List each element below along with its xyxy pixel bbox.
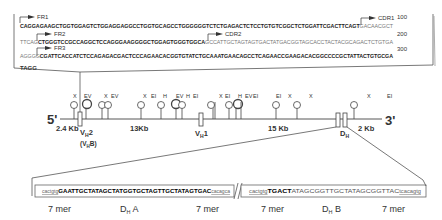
svg-text:EV: EV [245, 93, 253, 99]
svg-text:EV: EV [84, 93, 92, 99]
dh-a-sequence: cactgtgGAATTGCTATAGCTATGGTGCTAGTTGCTATAG… [42, 188, 230, 194]
svg-text:X: X [219, 93, 223, 99]
site-ev-icon [105, 102, 112, 109]
sequence-row-3: AGGGGCGATTCACCATCTCCAGAGACGACTCCCAGAACAC… [20, 52, 393, 59]
svg-text:X: X [143, 93, 147, 99]
svg-text:H: H [163, 93, 167, 99]
dh-b-segment: cactgtgTGACTATAGCGGTTGCTATAGCGGTTACtcaca… [241, 180, 426, 197]
distance-15kb: 15 Kb [268, 124, 289, 133]
site-h-icon [179, 102, 186, 109]
svg-text:EV: EV [176, 93, 184, 99]
site-x-icon [208, 102, 215, 109]
three-prime-label: 3' [385, 113, 395, 128]
heptamer-4-label: 7 mer [382, 204, 405, 214]
svg-text:X: X [367, 93, 371, 99]
site-h-icon [158, 102, 165, 109]
heptamer-1-label: 7 mer [48, 204, 71, 214]
vh1-label: VH1 [195, 129, 208, 139]
svg-text:EI: EI [253, 93, 259, 99]
heptamer-2-label: 7 mer [196, 204, 219, 214]
site-x-icon [71, 102, 78, 109]
site-ei-icon [273, 102, 280, 109]
distance-2kb: 2 Kb [358, 124, 375, 133]
svg-text:X: X [309, 93, 313, 99]
distance-13kb: 13Kb [130, 124, 149, 133]
svg-text:H: H [186, 93, 190, 99]
fr1-label: FR1 [37, 14, 49, 20]
dh-b-sequence: cactgtgTGACTATAGCGGTTGCTATAGCGGTTACtcaca… [249, 188, 421, 194]
dh-b-label: DH B [322, 204, 341, 215]
vh2-gene-box [78, 112, 82, 126]
sequence-row-2: TTCAGCTGGGTCCGCCAGGCTCCAGGGAAGGGGCTGGAGT… [20, 38, 394, 45]
svg-text:EI: EI [225, 93, 231, 99]
site-x-icon [351, 102, 358, 109]
site-ev-icon [83, 100, 92, 109]
svg-text:H: H [238, 93, 242, 99]
vh-locus-diagram: FR1 CAGGAGAAGCTGGTGGAGTCTGGAGGAGGCCTGGTG… [0, 0, 442, 220]
gene-map: 5' 3' X EV X EV X EI H EV H EI X EI H EV… [47, 93, 395, 149]
expansion-line-left [32, 127, 336, 178]
dh-a-segment: cactgtgGAATTGCTATAGCTATGGTGCTAGTTGCTATAG… [32, 178, 234, 197]
restriction-site-markers [71, 100, 358, 120]
vh2-alt-label: (VHB) [80, 140, 97, 149]
sequence-row-4: TAGG [20, 65, 37, 71]
sequence-row-1: CAGGAGAAGCTGGTGGAGTCTGGAGGAGGCCTGGTGCAGC… [20, 22, 393, 29]
expansion-line-right [347, 127, 423, 180]
position-300: 300 [397, 46, 408, 52]
heptamer-3-label: 7 mer [261, 204, 284, 214]
dh-label: DH [340, 129, 349, 139]
dh-a-gene-box [336, 113, 340, 127]
svg-text:X: X [73, 93, 77, 99]
svg-text:EV: EV [111, 93, 119, 99]
fr3-label: FR3 [54, 45, 66, 51]
svg-text:X: X [104, 93, 108, 99]
position-100: 100 [397, 14, 408, 20]
dh-b-gene-box [343, 113, 347, 127]
fr2-label: FR2 [54, 31, 66, 37]
vh2-label: VH2 [80, 128, 93, 138]
position-200: 200 [397, 31, 408, 37]
site-x-icon [294, 102, 301, 109]
site-x-icon [138, 102, 145, 109]
cdr1-label: CDR1 [378, 15, 395, 21]
sequence-box: FR1 CAGGAGAAGCTGGTGGAGTCTGGAGGAGGCCTGGTG… [14, 14, 435, 72]
svg-text:EI: EI [151, 93, 157, 99]
site-h-icon [226, 102, 233, 109]
restriction-site-labels: X EV X EV X EI H EV H EI X EI H EV EI EI… [73, 93, 393, 99]
cdr2-label: CDR2 [225, 31, 242, 37]
svg-text:X: X [288, 93, 292, 99]
dh-a-label: DH A [120, 204, 139, 215]
svg-text:EI: EI [193, 93, 199, 99]
distance-2-4kb: 2.4 Kb [56, 124, 79, 133]
svg-text:EI: EI [387, 93, 393, 99]
vh1-gene-box [199, 113, 203, 126]
svg-text:EI: EI [276, 93, 282, 99]
